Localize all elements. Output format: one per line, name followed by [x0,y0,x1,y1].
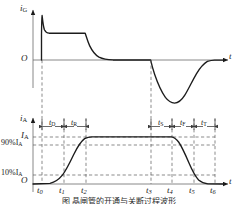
figure-caption: 图 晶闸管的开通与关断过程波形 [0,195,237,204]
anode-current-curve [33,137,225,184]
interval-label-fall-time: tF [180,119,185,128]
interval-label-storage-time: tS [158,119,163,128]
interval-label-tail-time: tT [201,119,207,128]
level-label-10: 10%IA [1,169,22,178]
bottom-y-axis-label: iA [20,114,27,124]
level-guides [33,137,215,175]
bottom-x-axis-label: t [229,177,232,186]
top-chart-axes [33,10,228,88]
top-x-axis-label: t [229,52,232,61]
interval-arrows [42,119,215,130]
waveform-figure [0,0,237,204]
interval-label-delay-time: tD [49,119,55,128]
top-origin-label: O [21,54,28,63]
top-y-axis-label: iG [20,4,27,14]
interval-label-rise-time: tR [71,119,77,128]
level-label-90: 90%IA [1,139,22,148]
gate-current-curve [42,16,226,104]
